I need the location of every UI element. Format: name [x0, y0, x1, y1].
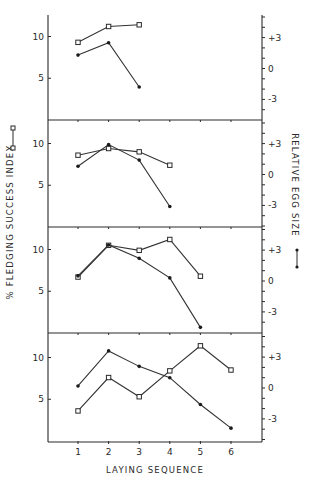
- y-right-tick-label: +3: [268, 352, 281, 362]
- y-left-tick-label: 10: [33, 32, 45, 42]
- square-marker-icon: [106, 375, 110, 379]
- y-right-tick-label: -3: [268, 94, 277, 104]
- y-right-tick-label: 0: [268, 383, 274, 393]
- x-tick-label: 1: [75, 447, 81, 457]
- y-right-tick-label: 0: [268, 170, 274, 180]
- y-left-tick-label: 5: [38, 286, 44, 296]
- dot-marker-icon: [168, 205, 172, 209]
- fledging-success-line: [78, 346, 231, 411]
- dot-marker-icon: [137, 85, 141, 89]
- y-right-tick-label: +3: [268, 33, 281, 43]
- dot-marker-icon: [107, 243, 111, 247]
- y-right-axis-title: RELATIVE EGG SIZE: [290, 133, 300, 237]
- square-marker-icon: [76, 409, 80, 413]
- dot-marker-icon: [199, 403, 203, 407]
- square-marker-icon: [229, 368, 233, 372]
- square-marker-icon: [137, 248, 141, 252]
- dot-marker-icon: [199, 326, 203, 330]
- x-tick-label: 3: [136, 447, 142, 457]
- x-tick-label: 6: [228, 447, 234, 457]
- y-left-axis-title: % FLEDGING SUCCESS INDEX: [5, 145, 15, 300]
- y-right-tick-label: +3: [268, 245, 281, 255]
- dot-marker-icon: [76, 384, 80, 388]
- square-marker-icon: [137, 23, 141, 27]
- egg-size-line: [78, 145, 170, 207]
- square-marker-icon: [76, 153, 80, 157]
- square-marker-icon: [106, 146, 110, 150]
- series: [76, 23, 233, 430]
- x-tick-label: 4: [167, 447, 173, 457]
- y-left-tick-label: 10: [33, 353, 45, 363]
- egg-size-line: [78, 351, 231, 428]
- axes: 105+30-3105+30-3105+30-3105+30-3123456: [33, 15, 282, 457]
- y-right-tick-label: -3: [268, 414, 277, 424]
- dot-marker-icon: [76, 53, 80, 57]
- square-marker-icon: [106, 24, 110, 28]
- y-left-tick-label: 5: [38, 180, 44, 190]
- x-tick-label: 5: [198, 447, 204, 457]
- y-right-tick-label: -3: [268, 200, 277, 210]
- y-right-tick-label: 0: [268, 64, 274, 74]
- dot-marker-icon: [137, 257, 141, 261]
- y-left-tick-label: 10: [33, 139, 45, 149]
- y-right-tick-label: -3: [268, 307, 277, 317]
- dot-marker-icon: [137, 158, 141, 162]
- left-legend-key-icon: [11, 126, 15, 150]
- dot-marker-icon: [107, 143, 111, 147]
- dot-marker-icon: [229, 426, 233, 430]
- y-left-tick-label: 5: [38, 73, 44, 83]
- dot-marker-icon: [137, 365, 141, 369]
- square-marker-icon: [198, 344, 202, 348]
- square-marker-icon: [168, 237, 172, 241]
- chart: 105+30-3105+30-3105+30-3105+30-3123456 L…: [0, 0, 310, 489]
- egg-size-line: [78, 43, 139, 87]
- y-right-tick-label: +3: [268, 139, 281, 149]
- x-tick-label: 2: [106, 447, 112, 457]
- right-legend-key-icon: [295, 248, 298, 268]
- y-left-tick-label: 5: [38, 394, 44, 404]
- x-axis-title: LAYING SEQUENCE: [106, 465, 204, 475]
- y-right-tick-label: 0: [268, 276, 274, 286]
- y-left-tick-label: 10: [33, 245, 45, 255]
- square-marker-icon: [168, 369, 172, 373]
- square-marker-icon: [198, 274, 202, 278]
- dot-marker-icon: [76, 164, 80, 168]
- square-marker-icon: [76, 40, 80, 44]
- dot-marker-icon: [107, 41, 111, 45]
- dot-marker-icon: [76, 274, 80, 278]
- square-marker-icon: [168, 163, 172, 167]
- dot-marker-icon: [168, 276, 172, 280]
- labels: LAYING SEQUENCE % FLEDGING SUCCESS INDEX…: [5, 133, 300, 475]
- square-marker-icon: [137, 395, 141, 399]
- square-marker-icon: [137, 150, 141, 154]
- dot-marker-icon: [107, 349, 111, 353]
- dot-marker-icon: [168, 376, 172, 380]
